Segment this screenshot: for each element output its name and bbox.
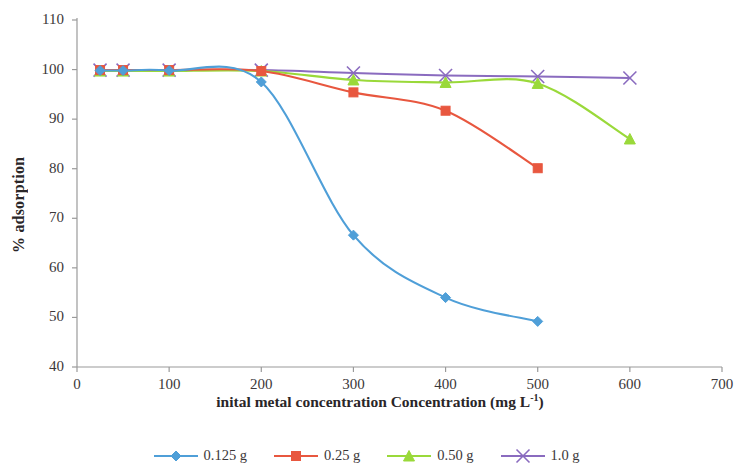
legend-swatch-diamond [153, 448, 199, 464]
legend-item[interactable]: 0.50 g [386, 447, 473, 464]
chart-legend: 0.125 g0.25 g0.50 g1.0 g [0, 447, 732, 464]
y-axis-tick-label: 60 [26, 260, 64, 275]
y-axis-tick-label: 110 [26, 12, 64, 27]
x-axis-tick-label: 0 [55, 377, 99, 392]
data-point-square [349, 88, 358, 97]
legend-swatch-cross [500, 448, 546, 464]
data-point-triangle [624, 133, 635, 144]
data-point-diamond [171, 451, 181, 461]
data-point-square [533, 164, 542, 173]
x-axis-tick-label: 600 [608, 377, 652, 392]
x-axis-tick-label: 400 [424, 377, 468, 392]
legend-item[interactable]: 0.25 g [273, 447, 360, 464]
data-point-square [441, 106, 450, 115]
x-axis-tick-label: 100 [147, 377, 191, 392]
x-axis-tick-label: 200 [239, 377, 283, 392]
legend-label: 0.50 g [437, 447, 473, 464]
x-axis-tick-label: 500 [516, 377, 560, 392]
data-point-square [292, 451, 301, 460]
y-axis-tick-label: 80 [26, 161, 64, 176]
series-line [100, 69, 538, 168]
x-axis-tick-label: 300 [331, 377, 375, 392]
x-axis-title: inital metal concentration Concentration… [80, 392, 680, 411]
data-point-square [257, 67, 266, 76]
y-axis-tick-label: 90 [26, 111, 64, 126]
y-axis-tick-label: 100 [26, 62, 64, 77]
x-axis-title-tail: ) [539, 393, 544, 410]
series-line [100, 70, 630, 139]
x-axis-title-superscript: -1 [530, 392, 538, 403]
legend-label: 0.125 g [204, 447, 248, 464]
legend-label: 1.0 g [551, 447, 580, 464]
x-axis-tick-label: 700 [700, 377, 738, 392]
legend-item[interactable]: 1.0 g [500, 447, 580, 464]
series-line [100, 67, 538, 322]
y-axis-tick-label: 40 [26, 359, 64, 374]
legend-swatch-triangle [386, 448, 432, 464]
legend-swatch-square [273, 448, 319, 464]
data-point-diamond [441, 293, 451, 303]
y-axis-tick-label: 70 [26, 210, 64, 225]
legend-item[interactable]: 0.125 g [153, 447, 248, 464]
x-axis-title-main: inital metal concentration Concentration… [216, 393, 530, 410]
data-point-diamond [533, 316, 543, 326]
y-axis-tick-label: 50 [26, 309, 64, 324]
legend-label: 0.25 g [324, 447, 360, 464]
series-0-125-g [95, 66, 543, 327]
